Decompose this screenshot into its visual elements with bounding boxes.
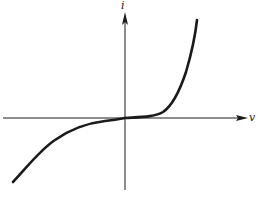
iv-characteristic-diagram	[0, 0, 258, 197]
iv-curve	[13, 20, 197, 182]
v-axis-label: v	[249, 112, 255, 123]
i-axis-label: i	[121, 0, 125, 11]
